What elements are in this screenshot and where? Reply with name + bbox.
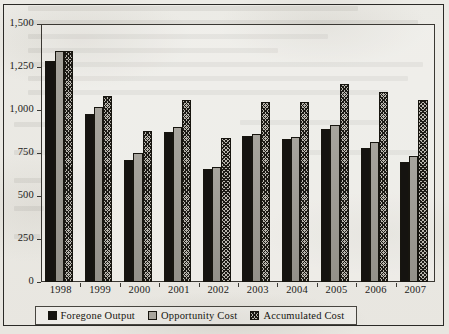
bar bbox=[94, 107, 103, 282]
y-axis-tick-mark bbox=[37, 282, 41, 283]
bar bbox=[203, 169, 212, 282]
bar bbox=[212, 167, 221, 282]
y-axis-tick-label: 0 bbox=[0, 275, 34, 286]
x-axis-tick-label: 2002 bbox=[199, 284, 238, 295]
bar bbox=[370, 142, 379, 282]
legend-swatch-icon bbox=[148, 311, 157, 320]
x-axis-tick-label: 2005 bbox=[317, 284, 356, 295]
x-axis-tick-mark bbox=[238, 283, 239, 287]
bar bbox=[300, 102, 309, 282]
y-axis-tick-label: 500 bbox=[0, 189, 34, 200]
bar bbox=[64, 51, 73, 282]
bar bbox=[221, 138, 230, 282]
x-axis-tick-mark bbox=[80, 283, 81, 287]
bar-group bbox=[45, 24, 73, 282]
y-axis-tick-label: 1,000 bbox=[0, 103, 34, 114]
bar-group bbox=[164, 24, 192, 282]
bar bbox=[361, 148, 370, 282]
bar bbox=[400, 162, 409, 282]
legend-label: Opportunity Cost bbox=[161, 310, 237, 321]
bar-group bbox=[400, 24, 428, 282]
bar bbox=[143, 131, 152, 282]
x-axis-tick-label: 2007 bbox=[396, 284, 435, 295]
x-axis-tick-mark bbox=[120, 283, 121, 287]
legend-label: Foregone Output bbox=[61, 310, 135, 321]
x-axis-tick-mark bbox=[396, 283, 397, 287]
legend-swatch-icon bbox=[250, 311, 259, 320]
legend-item: Accumulated Cost bbox=[250, 310, 344, 321]
bar bbox=[182, 100, 191, 282]
bar-group bbox=[282, 24, 310, 282]
bar bbox=[85, 114, 94, 282]
bar-group bbox=[203, 24, 231, 282]
bar bbox=[330, 125, 339, 282]
y-axis-tick-label: 1,250 bbox=[0, 60, 34, 71]
bar bbox=[252, 134, 261, 282]
x-axis-tick-label: 2001 bbox=[159, 284, 198, 295]
x-axis-tick-mark bbox=[277, 283, 278, 287]
x-axis-tick-mark bbox=[159, 283, 160, 287]
legend-swatch-icon bbox=[48, 311, 57, 320]
bar bbox=[242, 136, 251, 282]
bar-group bbox=[242, 24, 270, 282]
bar bbox=[379, 92, 388, 282]
bar bbox=[340, 84, 349, 282]
x-axis-tick-label: 2000 bbox=[120, 284, 159, 295]
y-axis-tick-label: 250 bbox=[0, 232, 34, 243]
legend-item: Opportunity Cost bbox=[148, 310, 237, 321]
x-axis-tick-label: 1998 bbox=[41, 284, 80, 295]
bar bbox=[103, 96, 112, 282]
bar bbox=[173, 127, 182, 282]
bar-group bbox=[321, 24, 349, 282]
x-axis: 1998199920002001200220032004200520062007 bbox=[41, 284, 435, 300]
bar bbox=[321, 129, 330, 282]
bar bbox=[418, 100, 427, 282]
bar bbox=[133, 153, 142, 282]
bar bbox=[55, 51, 64, 282]
bar bbox=[124, 160, 133, 282]
chart-legend: Foregone OutputOpportunity CostAccumulat… bbox=[35, 306, 357, 325]
bar bbox=[291, 137, 300, 282]
x-axis-tick-mark bbox=[356, 283, 357, 287]
bar-group bbox=[124, 24, 152, 282]
x-axis-tick-label: 2006 bbox=[356, 284, 395, 295]
x-axis-tick-label: 1999 bbox=[80, 284, 119, 295]
y-axis-tick-label: 1,500 bbox=[0, 17, 34, 28]
bar-group bbox=[85, 24, 113, 282]
bar bbox=[282, 139, 291, 282]
legend-item: Foregone Output bbox=[48, 310, 135, 321]
y-axis-tick-label: 750 bbox=[0, 146, 34, 157]
chart-page: 02505007501,0001,2501,500 19981999200020… bbox=[0, 0, 449, 334]
x-axis-tick-label: 2003 bbox=[238, 284, 277, 295]
y-axis: 02505007501,0001,2501,500 bbox=[0, 0, 41, 334]
bar bbox=[164, 132, 173, 283]
x-axis-tick-mark bbox=[317, 283, 318, 287]
bar-series-container bbox=[41, 24, 435, 282]
bar bbox=[261, 102, 270, 282]
legend-label: Accumulated Cost bbox=[263, 310, 344, 321]
x-axis-tick-mark bbox=[199, 283, 200, 287]
bar bbox=[45, 61, 54, 282]
x-axis-tick-label: 2004 bbox=[277, 284, 316, 295]
bar bbox=[409, 156, 418, 282]
bar-group bbox=[361, 24, 389, 282]
